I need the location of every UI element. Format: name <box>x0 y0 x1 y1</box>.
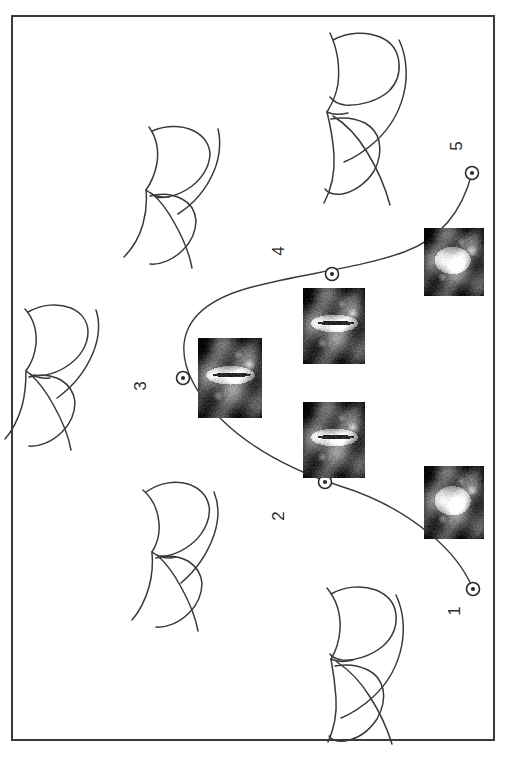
stage-label-5: 5 <box>446 135 468 157</box>
trajectory-marker-5[interactable] <box>466 167 479 180</box>
stage-label-1: 1 <box>444 600 466 622</box>
stage-label-2: 2 <box>268 505 290 527</box>
trajectory-marker-3[interactable] <box>177 372 190 385</box>
stage-label-4: 4 <box>268 240 290 262</box>
trajectory-marker-4[interactable] <box>326 268 339 281</box>
endoscopic-photo-3 <box>198 338 262 418</box>
vocal-fold-sketch-2 <box>132 482 218 631</box>
vocal-fold-sketch-5 <box>324 33 406 205</box>
endoscopic-photo-5 <box>424 228 484 296</box>
endoscopic-photo-1 <box>424 466 484 539</box>
endoscopic-photo-4 <box>303 288 365 364</box>
stage-label-3: 3 <box>130 375 152 397</box>
figure-root: 1 2 3 4 5 <box>0 0 509 757</box>
endoscopic-photo-2 <box>303 402 365 478</box>
trajectory-marker-1[interactable] <box>467 583 480 596</box>
vocal-fold-sketch-1 <box>327 587 403 744</box>
vocal-fold-sketch-3 <box>5 305 98 450</box>
vocal-fold-sketch-4 <box>124 127 220 269</box>
